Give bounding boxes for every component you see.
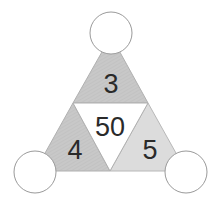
bottom-left-answer-circle[interactable]: [14, 151, 56, 193]
number-triangle-diagram: 3 4 5 50: [0, 0, 222, 204]
top-answer-circle[interactable]: [90, 12, 132, 54]
bottom-right-answer-circle[interactable]: [165, 151, 207, 193]
right-value: 5: [142, 135, 157, 165]
center-value: 50: [95, 112, 125, 142]
top-value: 3: [103, 69, 118, 99]
left-value: 4: [67, 135, 82, 165]
